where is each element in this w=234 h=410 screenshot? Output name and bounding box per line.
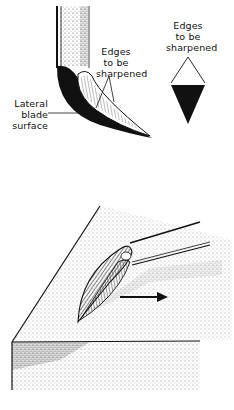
lateral-surface-label: Lateral blade surface <box>10 98 48 131</box>
blade-cross-section <box>171 57 205 124</box>
edges-label-cross-section: Edges to be sharpened <box>166 20 210 53</box>
edges-label-side: Edges to be sharpened <box>96 46 136 79</box>
